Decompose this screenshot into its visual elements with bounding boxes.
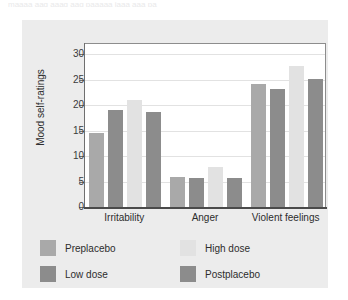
y-tick-label: 30 [62, 49, 84, 59]
bar [208, 167, 223, 207]
bar [227, 178, 242, 207]
legend-item: Low dose [40, 266, 108, 282]
y-tick-label: 20 [62, 100, 84, 110]
bar [251, 84, 266, 207]
legend-label: High dose [205, 243, 250, 254]
y-tick-label: 15 [62, 126, 84, 136]
x-category-label: Irritability [84, 212, 165, 224]
x-category-label: Violent feelings [245, 212, 326, 224]
bar [270, 89, 285, 207]
bar [89, 133, 104, 207]
legend-swatch [180, 240, 196, 256]
clipped-header-text: maaaa aag aaag aaq paaaaa jaaa aaa pa [8, 0, 340, 7]
legend-swatch [40, 266, 56, 282]
bar [146, 112, 161, 207]
legend-swatch [40, 240, 56, 256]
bars-container [85, 44, 325, 207]
chart-card: 051015202530 Mood self-ratings Irritabil… [22, 20, 328, 288]
y-tick-label: 0 [62, 202, 84, 212]
x-category-label: Anger [165, 212, 246, 224]
legend-label: Low dose [65, 269, 108, 280]
y-axis-label: Mood self-ratings [35, 43, 46, 173]
legend-label: Postplacebo [205, 269, 260, 280]
y-tick-label: 25 [62, 75, 84, 85]
chart-legend: PreplaceboHigh doseLow dosePostplacebo [40, 240, 316, 284]
legend-swatch [180, 266, 196, 282]
y-tick-label: 10 [62, 151, 84, 161]
legend-item: Preplacebo [40, 240, 116, 256]
legend-label: Preplacebo [65, 243, 116, 254]
x-axis-line [84, 207, 327, 209]
legend-item: High dose [180, 240, 250, 256]
bar [127, 100, 142, 207]
y-tick-label: 5 [62, 177, 84, 187]
bar [189, 178, 204, 207]
bar [170, 177, 185, 207]
chart-figure: maaaa aag aaag aaq paaaaa jaaa aaa pa 05… [0, 0, 348, 300]
legend-item: Postplacebo [180, 266, 260, 282]
bar [308, 79, 323, 207]
bar [289, 66, 304, 207]
bar [108, 110, 123, 207]
